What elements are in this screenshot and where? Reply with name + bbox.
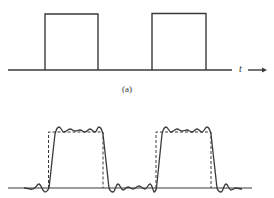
figure-a-caption: (a) bbox=[122, 84, 132, 94]
figure-a-square-wave bbox=[8, 14, 267, 73]
axis-label-t: t bbox=[239, 63, 242, 74]
axis-arrow-head bbox=[262, 68, 267, 73]
waveform-diagram bbox=[0, 0, 274, 198]
pulse-2 bbox=[152, 14, 206, 71]
pulse-1 bbox=[45, 14, 98, 70]
figure-b-fourier-approx bbox=[8, 127, 252, 192]
dashed-pulse-2 bbox=[156, 132, 211, 188]
dashed-pulse-1 bbox=[49, 132, 104, 188]
fourier-series-curve bbox=[24, 127, 242, 192]
